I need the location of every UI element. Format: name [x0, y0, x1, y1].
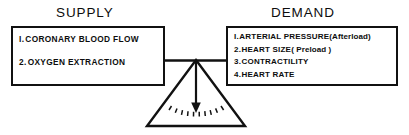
supply-item-number: 2.: [19, 57, 27, 67]
list-item: 4.HEART RATE: [234, 71, 396, 79]
list-item: I.CORONARY BLOOD FLOW: [19, 35, 163, 43]
demand-item-list: I.ARTERIAL PRESSURE(Afterload) 2.HEART S…: [228, 28, 396, 79]
demand-item-label: HEART SIZE: [242, 45, 292, 54]
demand-item-note: (Afterload): [329, 32, 371, 41]
supply-demand-balance-diagram: SUPPLY DEMAND I.CORONARY BLOOD FLOW 2.OX…: [0, 0, 409, 135]
demand-item-number: 2.: [234, 45, 241, 54]
supply-item-label: CORONARY BLOOD FLOW: [25, 34, 139, 44]
impact-radiating-marks: [169, 106, 224, 117]
supply-title: SUPPLY: [56, 6, 114, 20]
demand-title: DEMAND: [271, 6, 335, 20]
supply-box: I.CORONARY BLOOD FLOW 2.OXYGEN EXTRACTIO…: [11, 26, 165, 86]
list-item: I.ARTERIAL PRESSURE(Afterload): [234, 33, 396, 41]
demand-item-number: 3.: [234, 57, 241, 66]
demand-item-note: ( Preload ): [291, 45, 331, 54]
demand-item-label: CONTRACTILITY: [242, 57, 309, 66]
supply-item-number: I.: [19, 34, 24, 44]
demand-item-number: 4.: [234, 70, 241, 79]
balance-point-arrow-head: [191, 103, 201, 114]
demand-item-label: ARTERIAL PRESSURE: [239, 32, 329, 41]
list-item: 2.HEART SIZE( Preload ): [234, 46, 396, 54]
demand-item-label: HEART RATE: [242, 70, 295, 79]
supply-item-label: OXYGEN EXTRACTION: [28, 57, 126, 67]
supply-item-list: I.CORONARY BLOOD FLOW 2.OXYGEN EXTRACTIO…: [13, 28, 163, 67]
demand-box: I.ARTERIAL PRESSURE(Afterload) 2.HEART S…: [226, 26, 398, 86]
list-item: 3.CONTRACTILITY: [234, 58, 396, 66]
list-item: 2.OXYGEN EXTRACTION: [19, 58, 163, 66]
